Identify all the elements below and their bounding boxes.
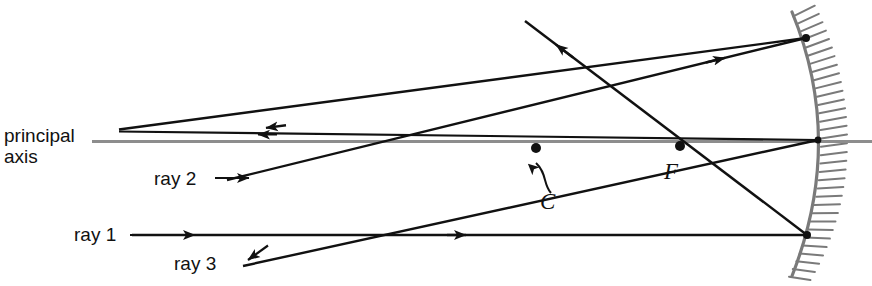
center-of-curvature-point	[531, 143, 541, 153]
center-of-curvature-label: C	[540, 190, 555, 213]
mirror-vertex-point	[815, 137, 822, 144]
focal-point-label: F	[664, 160, 678, 183]
ray-diagram-canvas	[0, 0, 872, 286]
ray-3-label: ray 3	[174, 253, 216, 274]
ray-2-reflected-line	[119, 38, 806, 130]
ray-3-reflected-line	[119, 132, 818, 141]
ray-diagram-figure: principal axis ray 2 ray 1 ray 3 F C	[0, 0, 872, 286]
ray-2-reflected-arrowhead	[266, 125, 286, 128]
ray-2-label: ray 2	[154, 168, 196, 189]
ray-3-leader-line	[248, 246, 268, 261]
ray-1-reflected-arrowhead	[556, 45, 573, 58]
ray-3-incident-line	[243, 140, 818, 266]
ray-direction-arrowheads	[258, 45, 725, 235]
ray-1-label: ray 1	[74, 224, 116, 245]
lower-mirror-hit-point	[803, 231, 811, 239]
principal-axis-label: principal axis	[4, 125, 75, 167]
ray-2-arrowhead	[706, 58, 725, 63]
upper-mirror-hit-point	[802, 34, 810, 42]
focal-point	[675, 141, 685, 151]
